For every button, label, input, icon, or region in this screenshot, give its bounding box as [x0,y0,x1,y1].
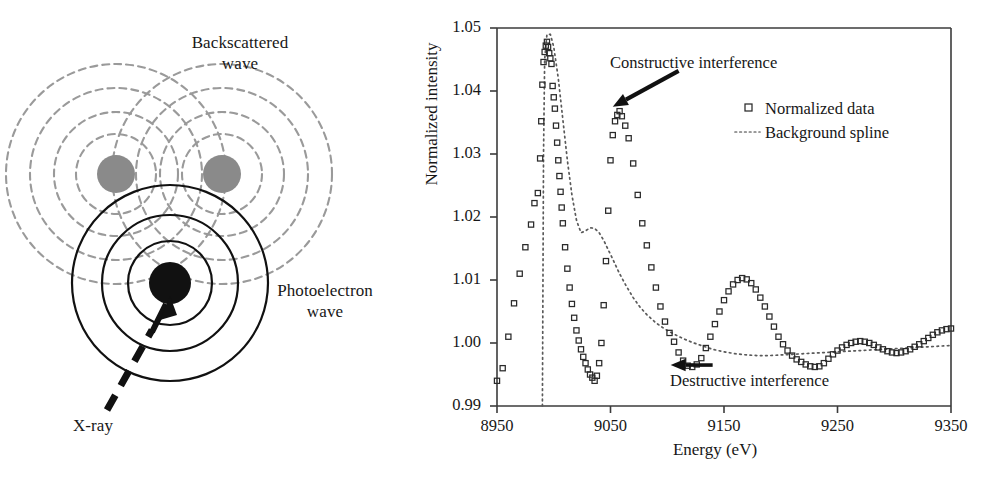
legend-marker-normalized-data [745,104,752,111]
data-point [644,243,649,248]
data-point [712,322,717,327]
annotation-constructive-interference: Constructive interference [610,53,777,73]
legend-glyphs [735,104,760,132]
data-point [631,161,636,166]
y-tick-label: 0.99 [429,395,481,415]
data-point [717,309,722,314]
label-photoelectron-line1: Photoelectron [250,280,400,301]
data-point [623,123,628,128]
data-point [578,347,583,352]
data-point [608,158,613,163]
x-axis-title: Energy (eV) [595,440,835,460]
data-point [576,338,581,343]
label-photoelectron-wave: Photoelectron wave [250,280,400,323]
data-point [557,173,562,178]
data-point [523,245,528,250]
x-tick-label: 9150 [689,416,759,436]
label-backscattered-line1: Backscattered [150,32,330,53]
legend-label-normalized-data: Normalized data [765,99,875,119]
data-point [606,208,611,213]
neighbor-atom-right [203,155,241,193]
data-point [758,295,763,300]
annotation-arrows [613,71,713,371]
data-point [511,301,516,306]
data-point [612,119,617,124]
data-point [708,334,713,339]
neighbor-atom-left [97,155,135,193]
constructive-interference-arrow [613,71,679,107]
data-point [597,361,602,366]
data-point [780,342,785,347]
exafs-figure: Backscattered wave Photoelectron wave X-… [0,0,1003,484]
data-point [528,222,533,227]
data-point [517,271,522,276]
data-point [771,324,776,329]
data-point [563,245,568,250]
data-point [560,221,565,226]
data-point [599,340,604,345]
data-point [649,265,654,270]
data-point [676,350,681,355]
legend-label-background-spline: Background spline [765,123,889,143]
data-point [552,106,557,111]
data-point [626,136,631,141]
data-point [762,304,767,309]
y-axis-title: Normalized intensity [422,0,442,229]
scattering-diagram-panel: Backscattered wave Photoelectron wave X-… [0,0,420,484]
data-point [753,287,758,292]
data-point [555,140,560,145]
data-point [603,259,608,264]
data-point [538,156,543,161]
y-tick-label: 1.00 [429,332,481,352]
label-photoelectron-line2: wave [250,301,400,322]
data-point [635,192,640,197]
y-tick-label: 1.01 [429,269,481,289]
y-axis-title-wrap: Normalized intensity [420,0,444,230]
data-point [500,366,505,371]
data-point [556,158,561,163]
data-point [506,334,511,339]
data-point [558,189,563,194]
y-axis-ticks [490,28,497,406]
data-point [699,356,704,361]
data-point [653,285,658,290]
data-point [559,205,564,210]
data-point [601,303,606,308]
data-point [550,83,555,88]
annotation-destructive-interference: Destructive interference [670,371,829,391]
data-point [539,119,544,124]
normalized-data-markers [494,39,953,383]
data-point [776,334,781,339]
x-tick-label: 9250 [803,416,873,436]
x-tick-label: 8950 [462,416,532,436]
data-point [549,61,554,66]
data-point [662,319,667,324]
data-point [640,221,645,226]
data-point [551,95,556,100]
data-point [535,190,540,195]
exafs-chart-panel: 0.991.001.011.021.031.041.05 89509050915… [420,0,1003,484]
data-point [553,123,558,128]
x-axis-ticks [497,406,951,413]
data-point [658,304,663,309]
data-point [721,298,726,303]
data-point [767,314,772,319]
data-point [565,266,570,271]
x-tick-label: 9350 [916,416,986,436]
label-backscattered-line2: wave [150,53,330,74]
data-point [532,201,537,206]
data-point [574,328,579,333]
data-point [583,361,588,366]
x-tick-label: 9050 [576,416,646,436]
data-point [567,285,572,290]
label-xray: X-ray [48,415,138,436]
data-point [572,315,577,320]
data-point [569,301,574,306]
data-point [671,339,676,344]
data-point [610,133,615,138]
data-point [726,289,731,294]
plot-frame [497,28,951,406]
label-backscattered-wave: Backscattered wave [150,32,330,75]
data-point [581,354,586,359]
